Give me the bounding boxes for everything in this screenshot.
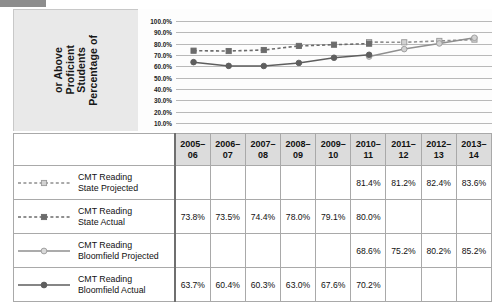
table-row: CMT ReadingBloomfield Projected68.6%75.2…: [14, 234, 492, 268]
y-axis-title-line-4: or Above: [53, 47, 64, 93]
table-body: CMT ReadingState Projected81.4%81.2%82.4…: [14, 166, 492, 302]
series-circle-dark: [191, 52, 372, 69]
table-header-0: 2005–06: [175, 134, 210, 166]
y-tick-label: 90.0%: [154, 29, 172, 36]
table-cell: 82.4%: [421, 166, 456, 200]
y-tick-label: 50.0%: [154, 74, 172, 81]
legend-line-swatch-icon: [18, 279, 70, 291]
data-table: 2005–062006–072007–082008–092009–102010–…: [13, 133, 492, 302]
table-header-6: 2011–12: [386, 134, 421, 166]
table-header-5: 2010–11: [351, 134, 386, 166]
legend-label: CMT ReadingState Actual: [70, 206, 132, 228]
table-cell: 63.7%: [175, 268, 210, 302]
legend-line-swatch-icon: [18, 245, 70, 257]
data-point: [401, 46, 407, 52]
y-axis-title-line-3: Proficient: [65, 45, 76, 94]
legend-cell-2: CMT ReadingBloomfield Projected: [14, 234, 176, 268]
y-tick-label: 20.0%: [154, 108, 172, 115]
table-cell: 81.4%: [351, 166, 386, 200]
chart-plot-area: 100.0%90.0%80.0%70.0%60.0%50.0%40.0%30.0…: [138, 9, 492, 131]
table-cell: [316, 166, 351, 200]
data-point: [331, 55, 337, 61]
table-cell: [316, 234, 351, 268]
y-axis-tick-labels: 100.0%90.0%80.0%70.0%60.0%50.0%40.0%30.0…: [138, 9, 174, 131]
table-cell: [210, 234, 245, 268]
table-corner-cell: [14, 134, 176, 166]
table-cell: 68.6%: [351, 234, 386, 268]
data-point: [191, 48, 196, 53]
table-cell: 75.2%: [386, 234, 421, 268]
series-square-light: [367, 37, 478, 45]
table-cell: 74.4%: [245, 200, 280, 234]
legend-label: CMT ReadingBloomfield Projected: [70, 240, 159, 262]
table-cell: [421, 200, 456, 234]
legend-label: CMT ReadingState Projected: [70, 172, 138, 194]
y-tick-label: 70.0%: [154, 52, 172, 59]
table-cell: 85.2%: [456, 234, 491, 268]
table-header-4: 2009–10: [316, 134, 351, 166]
legend-cell-0: CMT ReadingState Projected: [14, 166, 176, 200]
y-tick-label: 80.0%: [154, 40, 172, 47]
data-point: [472, 35, 478, 41]
data-point: [366, 52, 372, 58]
data-point: [191, 59, 197, 65]
table-header-row: 2005–062006–072007–082008–092009–102010–…: [14, 134, 492, 166]
legend-cell-1: CMT ReadingState Actual: [14, 200, 176, 234]
table-cell: [175, 166, 210, 200]
y-axis-title-line-2: Students: [76, 47, 87, 93]
table-header-1: 2006–07: [210, 134, 245, 166]
table-cell: [245, 166, 280, 200]
table-header-8: 2013–14: [456, 134, 491, 166]
y-tick-label: 100.0%: [150, 18, 172, 25]
table-cell: 73.5%: [210, 200, 245, 234]
table-cell: 79.1%: [316, 200, 351, 234]
table-header-7: 2012–13: [421, 134, 456, 166]
data-point: [296, 60, 302, 66]
legend-line-swatch-icon: [18, 211, 70, 223]
table-cell: 60.3%: [245, 268, 280, 302]
data-point: [367, 41, 372, 46]
table-cell: [456, 268, 491, 302]
series-circle-light: [366, 35, 477, 59]
table-cell: [210, 166, 245, 200]
legend-cell-3: CMT ReadingBloomfield Actual: [14, 268, 176, 302]
table-cell: [456, 200, 491, 234]
y-tick-label: 60.0%: [154, 63, 172, 70]
series-lines: [176, 9, 492, 131]
table-row: CMT ReadingState Actual73.8%73.5%74.4%78…: [14, 200, 492, 234]
y-tick-label: 40.0%: [154, 86, 172, 93]
table-header-2: 2007–08: [245, 134, 280, 166]
table-cell: 67.6%: [316, 268, 351, 302]
data-point: [261, 63, 267, 69]
table-row: CMT ReadingBloomfield Actual63.7%60.4%60…: [14, 268, 492, 302]
table-cell: 81.2%: [386, 166, 421, 200]
y-axis-title: Percentage of Students Proficient or Abo…: [13, 9, 138, 131]
table-cell: [175, 234, 210, 268]
table-cell: 73.8%: [175, 200, 210, 234]
data-point: [226, 63, 232, 69]
table-cell: 63.0%: [280, 268, 315, 302]
series-square-dark: [191, 41, 372, 54]
data-point: [226, 48, 231, 53]
data-point: [331, 42, 336, 47]
data-point: [261, 47, 266, 52]
table-cell: 80.0%: [351, 200, 386, 234]
y-tick-label: 10.0%: [154, 120, 172, 127]
table-cell: 70.2%: [351, 268, 386, 302]
y-tick-label: 30.0%: [154, 97, 172, 104]
table-cell: 78.0%: [280, 200, 315, 234]
data-point: [296, 43, 301, 48]
table-header-3: 2008–09: [280, 134, 315, 166]
table-cell: [280, 234, 315, 268]
table-cell: [421, 268, 456, 302]
data-point: [402, 40, 407, 45]
table-cell: 80.2%: [421, 234, 456, 268]
table-cell: 60.4%: [210, 268, 245, 302]
table-row: CMT ReadingState Projected81.4%81.2%82.4…: [14, 166, 492, 200]
legend-label: CMT ReadingBloomfield Actual: [70, 274, 145, 296]
legend-line-swatch-icon: [18, 177, 70, 189]
top-decoration-bar: [0, 0, 46, 7]
table-cell: 83.6%: [456, 166, 491, 200]
table-cell: [280, 166, 315, 200]
y-axis-title-line-1: Percentage of: [88, 35, 99, 106]
